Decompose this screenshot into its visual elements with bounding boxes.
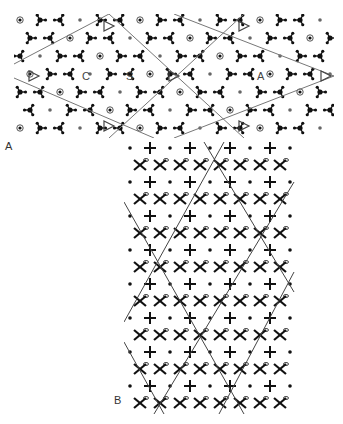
panel-a-lattice-diagram: C S A <box>14 14 334 138</box>
x-molecule-icon <box>254 363 269 375</box>
x-molecule-icon <box>154 295 169 307</box>
ringed-atom-icon <box>118 90 122 94</box>
cross-molecule-icon <box>184 278 196 290</box>
ringed-atom-icon <box>78 18 82 22</box>
cross-molecule-icon <box>144 244 156 256</box>
ringed-atom-icon <box>288 108 292 112</box>
x-molecule-icon <box>154 193 169 205</box>
cross-molecule-icon <box>264 278 276 290</box>
lattice-line <box>174 76 334 138</box>
ringed-atom-icon <box>238 90 242 94</box>
atom-dot-icon <box>248 248 252 252</box>
three-arm-molecule-icon <box>73 50 84 63</box>
panel-b-lattice-diagram <box>124 142 298 414</box>
atom-dot-icon <box>288 248 292 252</box>
cross-molecule-icon <box>264 210 276 222</box>
cross-molecule-icon <box>184 380 196 392</box>
x-molecule-icon <box>214 295 229 307</box>
x-molecule-icon <box>254 397 269 409</box>
ringed-atom-icon <box>137 125 143 131</box>
ringed-atom-icon <box>208 72 212 76</box>
x-molecule-icon <box>254 159 269 171</box>
x-molecule-icon <box>274 363 289 375</box>
atom-dot-icon <box>208 384 212 388</box>
three-arm-molecule-icon <box>156 14 167 26</box>
x-molecule-icon <box>154 363 169 375</box>
lattice-line <box>124 202 244 414</box>
three-arm-molecule-icon <box>86 32 97 45</box>
atom-dot-icon <box>128 282 132 286</box>
ringed-atom-icon <box>248 36 252 40</box>
ringed-atom-icon <box>318 126 322 130</box>
three-arm-molecule-icon <box>273 86 284 99</box>
atom-dot-icon <box>128 316 132 320</box>
x-molecule-icon <box>254 193 269 205</box>
atom-dot-icon <box>288 214 292 218</box>
atom-dot-icon <box>248 282 252 286</box>
three-arm-molecule-icon <box>243 68 254 81</box>
x-molecule-icon <box>154 227 169 239</box>
x-molecule-icon <box>154 329 169 341</box>
x-molecule-icon <box>194 193 209 205</box>
cross-molecule-icon <box>264 142 276 154</box>
three-arm-molecule-icon <box>183 68 194 81</box>
three-arm-molecule-icon <box>303 68 314 81</box>
ringed-atom-icon <box>48 108 52 112</box>
atom-dot-icon <box>168 146 172 150</box>
cross-molecule-icon <box>144 176 156 188</box>
x-molecule-icon <box>274 159 289 171</box>
ringed-atom-icon <box>257 125 263 131</box>
three-arm-molecule-icon <box>196 86 207 99</box>
cross-molecule-icon <box>224 346 236 358</box>
atom-dot-icon <box>208 214 212 218</box>
x-molecule-icon <box>234 193 249 205</box>
three-arm-molecule-icon <box>323 104 334 117</box>
lattice-line <box>174 14 334 76</box>
cross-molecule-icon <box>184 142 196 154</box>
ringed-atom-icon <box>227 107 233 113</box>
three-arm-molecule-icon <box>283 32 294 45</box>
three-arm-molecule-icon <box>156 122 167 135</box>
three-arm-molecule-icon <box>173 122 184 135</box>
x-molecule-icon <box>194 227 209 239</box>
ringed-atom-icon <box>97 53 103 59</box>
ringed-atom-icon <box>158 54 162 58</box>
three-arm-molecule-icon <box>63 68 74 81</box>
three-arm-molecule-icon <box>23 104 34 117</box>
atom-dot-icon <box>288 316 292 320</box>
atom-dot-icon <box>208 180 212 184</box>
three-arm-molecule-icon <box>306 104 317 117</box>
cross-molecule-icon <box>144 312 156 324</box>
cross-molecule-icon <box>144 142 156 154</box>
three-arm-molecule-icon <box>14 50 24 63</box>
cross-molecule-icon <box>224 142 236 154</box>
x-molecule-icon <box>214 261 229 273</box>
atom-dot-icon <box>128 384 132 388</box>
x-molecule-icon <box>234 227 249 239</box>
x-molecule-icon <box>254 261 269 273</box>
ringed-atom-icon <box>318 18 322 22</box>
ringed-atom-icon <box>177 89 183 95</box>
three-arm-molecule-icon <box>56 50 67 63</box>
ringed-atom-icon <box>257 17 263 23</box>
atom-dot-icon <box>288 384 292 388</box>
three-arm-molecule-icon <box>163 32 174 45</box>
three-arm-molecule-icon <box>36 14 47 26</box>
cross-molecule-icon <box>264 380 276 392</box>
x-molecule-icon <box>214 193 229 205</box>
three-arm-molecule-icon <box>276 122 287 135</box>
atom-dot-icon <box>288 180 292 184</box>
x-molecule-icon <box>154 261 169 273</box>
panel-a-svg: C S A <box>14 14 334 138</box>
panel-label-a: A <box>5 140 12 152</box>
ringed-atom-icon <box>137 17 143 23</box>
three-arm-molecule-icon <box>126 104 137 117</box>
atom-dot-icon <box>288 146 292 150</box>
atom-dot-icon <box>208 248 212 252</box>
three-arm-molecule-icon <box>43 32 54 45</box>
atom-dot-icon <box>168 248 172 252</box>
cross-molecule-icon <box>144 346 156 358</box>
three-arm-molecule-icon <box>253 50 264 63</box>
three-arm-molecule-icon <box>103 32 114 45</box>
x-molecule-icon <box>234 329 249 341</box>
